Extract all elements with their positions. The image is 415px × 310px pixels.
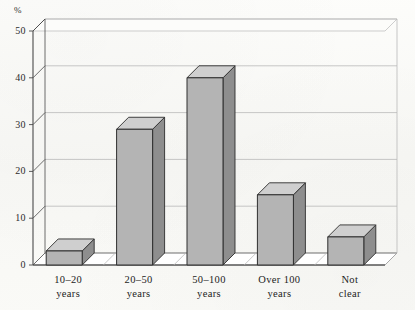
y-axis-tick-label: 50 <box>4 25 26 36</box>
gridline-depth-connector <box>33 159 45 171</box>
bar-group <box>328 225 376 265</box>
gridline-depth-connector <box>33 206 45 218</box>
chart-plot-area <box>0 0 415 310</box>
bar-group <box>187 66 235 265</box>
bar-front-face <box>328 237 364 265</box>
y-axis-tick-label: 10 <box>4 212 26 223</box>
y-axis-tick-label: 30 <box>4 119 26 130</box>
y-axis-tick-label: 0 <box>4 259 26 270</box>
plot-back-wall-top <box>33 19 397 31</box>
bar-front-face <box>117 129 153 265</box>
bar-chart-graphic <box>0 0 415 310</box>
bar-side-face <box>223 66 235 265</box>
bar-group <box>117 117 165 265</box>
bar-side-face <box>153 117 165 265</box>
bar-front-face <box>257 195 293 265</box>
bar-front-face <box>187 78 223 265</box>
figure-container: 01020304050 10–20years20–50years50–100ye… <box>0 0 415 310</box>
gridline-depth-connector <box>33 66 45 78</box>
x-axis-tick-label-line: Not <box>300 273 400 287</box>
x-axis-tick-label-line: clear <box>300 287 400 301</box>
gridline-depth-connector <box>33 113 45 125</box>
y-axis-tick-label: 40 <box>4 72 26 83</box>
y-axis-unit-label: % <box>14 5 22 15</box>
bar-front-face <box>46 251 82 265</box>
bar-group <box>257 183 305 265</box>
bar-side-face <box>293 183 305 265</box>
x-axis-tick-label: Notclear <box>300 273 400 301</box>
y-axis-tick-label: 20 <box>4 165 26 176</box>
